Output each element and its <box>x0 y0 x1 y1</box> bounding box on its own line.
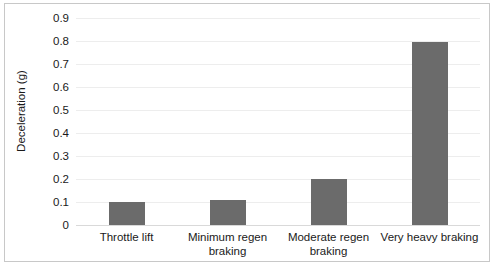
y-axis-tick-label: 0.8 <box>53 35 69 47</box>
plot-area: 00.10.20.30.40.50.60.70.80.9 <box>76 18 480 225</box>
chart-container: Deceleration (g) 00.10.20.30.40.50.60.70… <box>4 3 490 262</box>
y-axis-tick-label: 0.9 <box>53 12 69 24</box>
y-axis-tick-label: 0.3 <box>53 150 69 162</box>
y-axis-title: Deceleration (g) <box>15 51 27 171</box>
y-axis-tick-label: 0.5 <box>53 104 69 116</box>
bar <box>210 200 246 225</box>
bar-series <box>76 18 480 225</box>
x-axis-category-labels: Throttle liftMinimum regen brakingModera… <box>76 228 480 266</box>
x-axis-category-label: Moderate regen braking <box>278 228 379 266</box>
y-axis-tick-label: 0.6 <box>53 81 69 93</box>
bar <box>412 42 448 225</box>
y-axis-tick-label: 0.4 <box>53 127 69 139</box>
bar-slot <box>379 18 480 225</box>
bar <box>109 202 145 225</box>
y-axis-tick-label: 0.1 <box>53 196 69 208</box>
y-axis-tick-label: 0 <box>63 219 69 231</box>
x-axis-category-label: Minimum regen braking <box>177 228 278 266</box>
axis-baseline <box>76 225 480 226</box>
x-axis-category-label: Throttle lift <box>76 228 177 266</box>
bar-slot <box>76 18 177 225</box>
y-axis-tick-label: 0.7 <box>53 58 69 70</box>
bar-slot <box>278 18 379 225</box>
bar-slot <box>177 18 278 225</box>
y-axis-tick-label: 0.2 <box>53 173 69 185</box>
bar <box>311 179 347 225</box>
x-axis-category-label: Very heavy braking <box>379 228 480 266</box>
